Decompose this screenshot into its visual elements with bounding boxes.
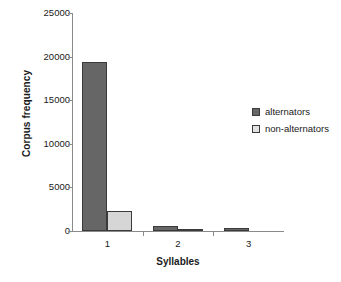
y-tick: 25000 (0, 13, 80, 14)
y-tick-mark (68, 13, 73, 14)
legend-swatch-non-alternators (252, 125, 260, 133)
x-tick-label: 3 (229, 238, 269, 249)
y-axis-line (72, 13, 73, 232)
y-tick-label: 5000 (49, 181, 70, 192)
chart-legend: alternatorsnon-alternators (252, 104, 329, 138)
y-tick-label: 10000 (44, 138, 70, 149)
bar-chart-figure: Corpus frequency 25000200001500010000500… (0, 0, 341, 282)
x-axis-title: Syllables (72, 256, 284, 267)
y-tick: 10000 (0, 144, 80, 145)
y-tick-mark (68, 187, 73, 188)
y-axis-title: Corpus frequency (21, 44, 32, 184)
y-tick: 0 (0, 231, 80, 232)
bar-alternators-3 (224, 228, 249, 231)
caption-sliver (14, 278, 254, 281)
y-tick-mark (68, 57, 73, 58)
x-tick-label: 2 (158, 238, 198, 249)
x-tick-label: 1 (87, 238, 127, 249)
y-tick-mark (68, 100, 73, 101)
legend-item: alternators (252, 104, 329, 119)
legend-label: alternators (265, 106, 310, 117)
legend-label: non-alternators (265, 123, 329, 134)
legend-item: non-alternators (252, 121, 329, 136)
legend-swatch-alternators (252, 108, 260, 116)
bar-alternators-1 (82, 62, 107, 231)
y-tick: 15000 (0, 100, 80, 101)
y-tick-label: 25000 (44, 7, 70, 18)
y-tick-mark (68, 144, 73, 145)
y-tick: 20000 (0, 57, 80, 58)
bar-non-alternators-1 (107, 211, 132, 231)
bar-alternators-2 (153, 226, 178, 231)
x-tick-mark (213, 231, 214, 236)
y-tick-label: 20000 (44, 51, 70, 62)
y-tick-label: 15000 (44, 94, 70, 105)
bar-non-alternators-2 (178, 229, 203, 231)
x-tick-mark (143, 231, 144, 236)
y-tick: 5000 (0, 187, 80, 188)
